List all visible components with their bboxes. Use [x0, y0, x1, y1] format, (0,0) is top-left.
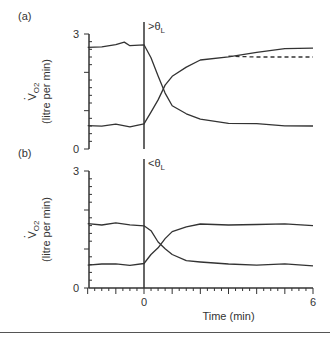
series-line — [88, 42, 313, 126]
x-tick-label: 6 — [310, 296, 316, 308]
threshold-annotation: >θL — [148, 20, 166, 35]
threshold-annotation: <θL — [148, 157, 166, 172]
x-axis-label: Time (min) — [202, 310, 254, 322]
y-tick-label: 3 — [73, 165, 79, 177]
y-axis-units: (litre per min) — [40, 197, 52, 262]
series-fit-dashed — [229, 56, 314, 57]
series-line — [88, 48, 313, 127]
svg-text:·: · — [18, 235, 30, 239]
bottom-divider — [0, 332, 330, 333]
chart: (a)03VO2·(litre per min)>θL(b)03VO2·(lit… — [0, 0, 330, 340]
panel-a: (a)03VO2·(litre per min)>θL — [18, 10, 313, 155]
x-tick-label: 0 — [141, 296, 147, 308]
y-tick-label: 0 — [73, 143, 79, 155]
series-line — [88, 223, 313, 266]
panel-b: (b)03VO2·(litre per min)<θL06Time (min) — [18, 147, 316, 322]
panel-label: (b) — [18, 147, 31, 159]
y-axis-units: (litre per min) — [40, 59, 52, 124]
y-tick-label: 0 — [73, 282, 79, 294]
y-tick-label: 3 — [73, 28, 79, 40]
panel-label: (a) — [18, 10, 31, 22]
series-line — [88, 224, 313, 266]
svg-text:·: · — [18, 97, 30, 101]
